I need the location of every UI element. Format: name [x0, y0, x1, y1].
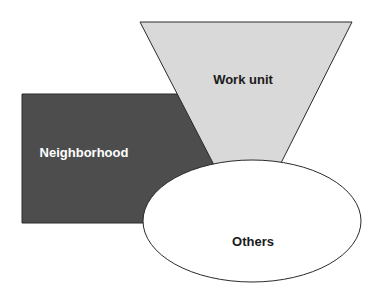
work-unit-label: Work unit	[213, 72, 273, 87]
others-ellipse	[143, 160, 361, 282]
neighborhood-label: Neighborhood	[40, 145, 129, 160]
diagram-svg: Neighborhood Work unit Others	[0, 0, 383, 289]
diagram-canvas: Neighborhood Work unit Others	[0, 0, 383, 289]
others-label: Others	[232, 234, 274, 249]
others-shape: Others	[143, 160, 361, 282]
